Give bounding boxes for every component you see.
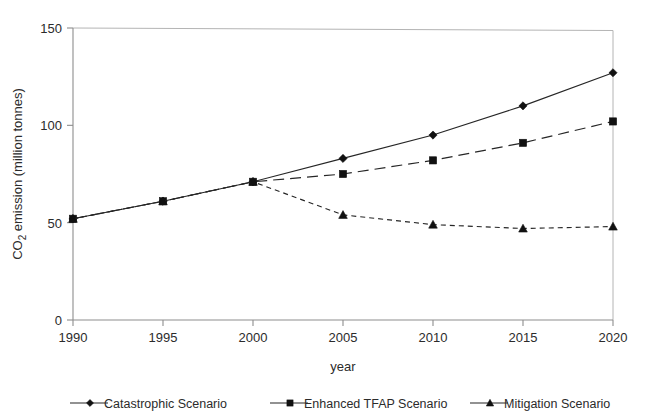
- y-tick-label: 100: [40, 118, 62, 133]
- data-series: [69, 69, 617, 223]
- x-tick-label: 2010: [419, 330, 448, 345]
- y-axis-ticks: 050100150: [40, 21, 73, 328]
- legend-item[interactable]: Catastrophic Scenario: [70, 397, 227, 411]
- y-tick-label: 0: [55, 313, 62, 328]
- series-line: [73, 182, 613, 229]
- diamond-marker: [87, 400, 94, 407]
- legend-item-label: Mitigation Scenario: [504, 397, 610, 411]
- x-axis-ticks: 1990199520002005201020152020: [59, 320, 628, 345]
- x-axis: 1990199520002005201020152020: [59, 320, 628, 345]
- x-tick-label: 2000: [239, 330, 268, 345]
- diamond-marker: [519, 102, 527, 110]
- legend-item-label: Catastrophic Scenario: [104, 397, 227, 411]
- x-tick-label: 2015: [509, 330, 538, 345]
- square-marker: [287, 400, 293, 406]
- legend-item[interactable]: Mitigation Scenario: [470, 397, 610, 411]
- co2-emission-scenarios-chart: 050100150 1990199520002005201020152020 C…: [0, 0, 652, 418]
- diamond-marker: [429, 131, 437, 139]
- data-series: [69, 118, 616, 223]
- data-series: [69, 177, 618, 232]
- square-marker: [609, 118, 616, 125]
- frame-top-line: [73, 28, 613, 31]
- triangle-marker: [609, 222, 618, 230]
- y-axis-title-text: CO2 emission (million tonnes): [10, 88, 28, 260]
- legend-item[interactable]: Enhanced TFAP Scenario: [270, 397, 447, 411]
- diamond-marker: [339, 154, 347, 162]
- square-marker: [429, 157, 436, 164]
- triangle-marker: [339, 211, 348, 219]
- square-marker: [339, 170, 346, 177]
- y-axis-title: CO2 emission (million tonnes): [10, 88, 28, 260]
- x-tick-label: 1995: [149, 330, 178, 345]
- data-series-layer: [69, 69, 618, 232]
- series-line: [73, 73, 613, 219]
- x-tick-label: 2005: [329, 330, 358, 345]
- x-axis-title: year: [330, 359, 356, 374]
- y-axis-title-suffix: emission (million tonnes): [10, 88, 25, 235]
- square-marker: [519, 139, 526, 146]
- y-tick-label: 50: [48, 216, 62, 231]
- y-axis: 050100150: [40, 21, 73, 328]
- chart-legend: Catastrophic ScenarioEnhanced TFAP Scena…: [70, 397, 610, 411]
- y-tick-label: 150: [40, 21, 62, 36]
- x-tick-label: 2020: [599, 330, 628, 345]
- x-tick-label: 1990: [59, 330, 88, 345]
- y-axis-title-prefix: CO: [10, 240, 25, 260]
- legend-item-label: Enhanced TFAP Scenario: [304, 397, 447, 411]
- diamond-marker: [609, 69, 617, 77]
